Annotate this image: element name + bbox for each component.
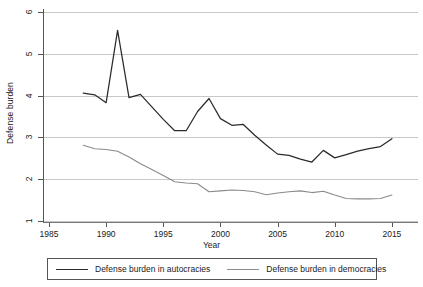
y-tick-label-6: 6 bbox=[22, 7, 36, 17]
legend-label-autocracies: Defense burden in autocracies bbox=[95, 264, 210, 274]
y-axis-title-label: Defense burden bbox=[5, 82, 15, 144]
legend-swatch-autocracies bbox=[56, 269, 88, 270]
x-tick-mark-2000 bbox=[220, 223, 221, 227]
y-tick-label-5: 5 bbox=[22, 49, 36, 59]
y-axis-title: Defense burden bbox=[0, 0, 20, 225]
y-tick-text: 4 bbox=[24, 93, 34, 98]
y-tick-text: 1 bbox=[24, 219, 34, 224]
x-tick-label-1990: 1990 bbox=[86, 229, 126, 239]
y-tick-label-3: 3 bbox=[22, 132, 36, 142]
x-tick-label-2015: 2015 bbox=[372, 229, 412, 239]
y-tick-text: 3 bbox=[24, 135, 34, 140]
x-tick-mark-1985 bbox=[49, 223, 50, 227]
x-tick-label-2000: 2000 bbox=[200, 229, 240, 239]
x-axis-title: Year bbox=[0, 240, 423, 250]
y-tick-text: 6 bbox=[24, 10, 34, 15]
x-tick-label-2010: 2010 bbox=[315, 229, 355, 239]
y-tick-text: 5 bbox=[24, 51, 34, 56]
plot-area bbox=[43, 10, 418, 223]
series-lines bbox=[43, 10, 418, 223]
y-tick-label-1: 1 bbox=[22, 216, 36, 226]
x-tick-mark-2005 bbox=[278, 223, 279, 227]
x-axis-title-label: Year bbox=[203, 240, 220, 250]
y-tick-label-4: 4 bbox=[22, 91, 36, 101]
x-tick-mark-2010 bbox=[335, 223, 336, 227]
series-line-autocracies bbox=[83, 30, 392, 162]
legend-entry-democracies[interactable]: Defense burden in democracies bbox=[227, 259, 386, 279]
y-tick-text: 2 bbox=[24, 177, 34, 182]
legend-swatch-democracies bbox=[227, 269, 259, 270]
chart-legend: Defense burden in autocracies Defense bu… bbox=[47, 258, 377, 280]
x-tick-mark-1990 bbox=[106, 223, 107, 227]
legend-entry-autocracies[interactable]: Defense burden in autocracies bbox=[56, 259, 210, 279]
x-tick-mark-1995 bbox=[163, 223, 164, 227]
legend-label-democracies: Defense burden in democracies bbox=[266, 264, 386, 274]
x-tick-label-1995: 1995 bbox=[143, 229, 183, 239]
chart-figure: Defense burden 1234561985199019952000200… bbox=[0, 0, 423, 287]
x-tick-label-1985: 1985 bbox=[29, 229, 69, 239]
x-tick-label-2005: 2005 bbox=[258, 229, 298, 239]
y-tick-label-2: 2 bbox=[22, 174, 36, 184]
x-tick-mark-2015 bbox=[392, 223, 393, 227]
series-line-democracies bbox=[83, 145, 392, 199]
